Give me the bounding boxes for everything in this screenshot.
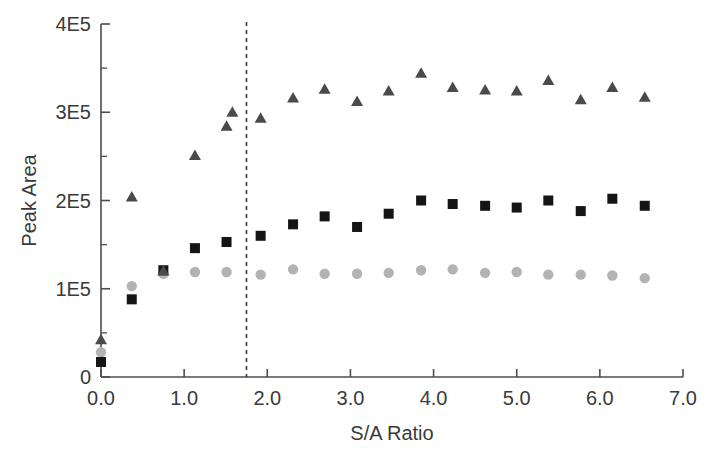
x-tick-label: 3.0 xyxy=(337,387,365,409)
series-triangle xyxy=(95,67,651,344)
data-point-triangle xyxy=(95,334,107,345)
x-tick-label: 1.0 xyxy=(170,387,198,409)
data-point-triangle xyxy=(221,120,233,131)
x-tick-label: 7.0 xyxy=(669,387,697,409)
data-point-square xyxy=(96,357,106,367)
data-point-circle xyxy=(480,268,490,278)
data-point-circle xyxy=(127,281,137,291)
data-point-square xyxy=(190,243,200,253)
scatter-plot: 01E52E53E54E50.01.02.03.04.05.06.07.0S/A… xyxy=(0,0,717,455)
data-point-circle xyxy=(416,265,426,275)
data-point-circle xyxy=(255,269,265,279)
y-tick-label: 1E5 xyxy=(55,278,91,300)
data-point-circle xyxy=(543,269,553,279)
data-point-square xyxy=(640,201,650,211)
data-point-triangle xyxy=(383,85,395,96)
data-point-circle xyxy=(352,269,362,279)
data-point-triangle xyxy=(575,94,587,105)
data-point-circle xyxy=(288,264,298,274)
y-axis-title: Peak Area xyxy=(18,153,40,246)
data-point-square xyxy=(512,203,522,213)
data-point-square xyxy=(416,196,426,206)
chart-figure: 01E52E53E54E50.01.02.03.04.05.06.07.0S/A… xyxy=(0,0,717,455)
data-point-square xyxy=(256,231,266,241)
data-point-triangle xyxy=(511,85,523,96)
data-point-circle xyxy=(607,270,617,280)
x-axis-title: S/A Ratio xyxy=(350,422,433,444)
data-point-circle xyxy=(96,347,106,357)
data-point-triangle xyxy=(447,81,459,92)
data-point-circle xyxy=(447,264,457,274)
data-point-circle xyxy=(576,269,586,279)
data-point-triangle xyxy=(415,67,427,78)
data-point-square xyxy=(288,219,298,229)
data-series xyxy=(95,67,651,367)
data-point-square xyxy=(480,201,490,211)
data-point-square xyxy=(576,206,586,216)
data-point-triangle xyxy=(542,74,554,85)
axes xyxy=(101,24,683,377)
y-tick-label: 4E5 xyxy=(55,13,91,35)
data-point-triangle xyxy=(189,149,201,160)
data-point-triangle xyxy=(126,191,138,202)
data-point-triangle xyxy=(606,81,618,92)
data-point-circle xyxy=(319,269,329,279)
data-point-triangle xyxy=(639,91,651,102)
y-tick-label: 0 xyxy=(80,366,91,388)
data-point-circle xyxy=(512,267,522,277)
x-tick-label: 5.0 xyxy=(503,387,531,409)
data-point-square xyxy=(448,199,458,209)
data-point-circle xyxy=(221,267,231,277)
data-point-square xyxy=(352,222,362,232)
data-point-square xyxy=(320,211,330,221)
data-point-triangle xyxy=(226,106,238,117)
data-point-circle xyxy=(190,267,200,277)
data-point-triangle xyxy=(351,96,363,107)
data-point-square xyxy=(384,209,394,219)
y-tick-label: 3E5 xyxy=(55,101,91,123)
series-square xyxy=(96,194,650,367)
data-point-triangle xyxy=(255,112,267,123)
data-point-square xyxy=(543,196,553,206)
y-tick-label: 2E5 xyxy=(55,190,91,212)
data-point-triangle xyxy=(479,84,491,95)
data-point-square xyxy=(222,237,232,247)
data-point-square xyxy=(127,294,137,304)
series-circle xyxy=(96,264,650,357)
x-tick-label: 2.0 xyxy=(253,387,281,409)
data-point-circle xyxy=(640,273,650,283)
data-point-triangle xyxy=(319,83,331,94)
x-tick-label: 4.0 xyxy=(420,387,448,409)
x-tick-label: 6.0 xyxy=(586,387,614,409)
data-point-square xyxy=(607,194,617,204)
x-tick-label: 0.0 xyxy=(87,387,115,409)
data-point-triangle xyxy=(287,92,299,103)
data-point-circle xyxy=(383,268,393,278)
